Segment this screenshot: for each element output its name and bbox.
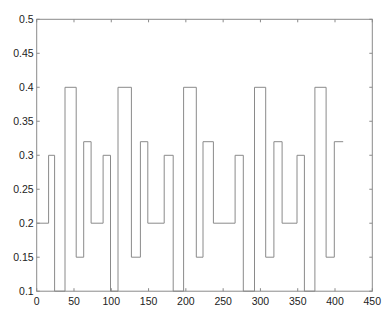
plot-background <box>0 0 390 318</box>
x-tick-label: 0 <box>34 295 40 307</box>
y-tick-label: 0.15 <box>13 251 34 263</box>
y-tick-label: 0.5 <box>19 13 34 25</box>
y-tick-label: 0.25 <box>13 183 34 195</box>
y-tick-label: 0.45 <box>13 47 34 59</box>
x-tick-label: 50 <box>68 295 80 307</box>
x-tick-label: 400 <box>326 295 344 307</box>
step-line-chart: 050100150200250300350400450 0.10.150.20.… <box>0 0 390 318</box>
x-tick-label: 300 <box>252 295 270 307</box>
y-tick-label: 0.3 <box>19 149 34 161</box>
y-tick-label: 0.1 <box>19 285 34 297</box>
x-tick-label: 200 <box>177 295 195 307</box>
y-tick-label: 0.35 <box>13 115 34 127</box>
x-tick-label: 250 <box>214 295 232 307</box>
y-tick-label: 0.4 <box>19 81 34 93</box>
x-tick-label: 350 <box>289 295 307 307</box>
y-tick-label: 0.2 <box>19 217 34 229</box>
x-tick-label: 450 <box>364 295 382 307</box>
x-tick-label: 100 <box>103 295 121 307</box>
x-tick-label: 150 <box>140 295 158 307</box>
